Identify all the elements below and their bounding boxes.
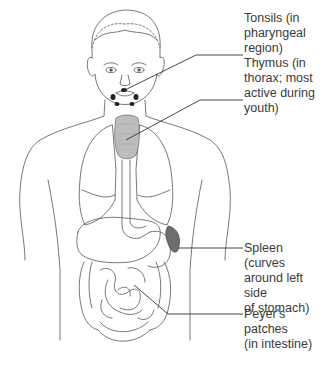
thymus-label: Thymus (in thorax; most active during yo… (244, 56, 315, 116)
spleen-organ (166, 226, 180, 252)
tonsils-leader-line (125, 55, 243, 90)
tonsils-organ (111, 88, 139, 106)
thymus-leader-line (126, 100, 243, 140)
peyers-leader-line (134, 285, 243, 314)
spleen-label: Spleen (curves around left side of stoma… (244, 241, 327, 316)
thymus-organ (115, 115, 140, 159)
tonsils-label: Tonsils (in pharyngeal region) (244, 11, 306, 56)
intestines-outline (79, 262, 170, 341)
peyers-patches-label: Peyer's patches (in intestine) (244, 307, 327, 352)
